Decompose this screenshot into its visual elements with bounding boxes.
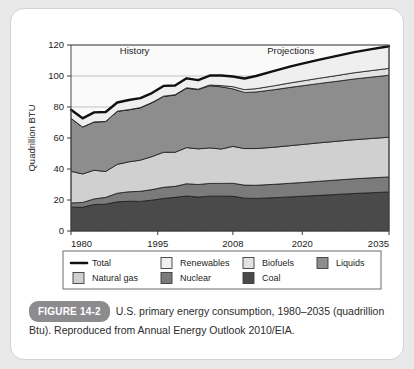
legend-swatch-biofuels: [243, 258, 254, 269]
y-tick-label: 0: [59, 225, 64, 236]
legend-label-liquids: Liquids: [336, 258, 365, 268]
legend-label-renewables: Renewables: [180, 258, 230, 268]
legend-swatch-coal: [243, 273, 254, 284]
legend-swatch-natural-gas: [73, 273, 84, 284]
y-tick-label: 40: [53, 163, 64, 174]
y-tick-label: 20: [53, 194, 64, 205]
figure-card: 02040608010012019801995200820202035Quadr…: [10, 8, 404, 360]
y-tick-label: 100: [48, 70, 64, 81]
legend-label-natural-gas: Natural gas: [92, 273, 139, 283]
energy-consumption-chart: 02040608010012019801995200820202035Quadr…: [23, 23, 393, 295]
legend-label-nuclear: Nuclear: [180, 273, 211, 283]
x-tick-label: 2020: [292, 238, 313, 249]
chart-panel: 02040608010012019801995200820202035Quadr…: [23, 23, 393, 295]
legend-label-total: Total: [92, 258, 111, 268]
legend-label-coal: Coal: [262, 273, 281, 283]
x-tick-label: 2035: [368, 238, 389, 249]
band-label: History: [120, 45, 150, 56]
x-tick-label: 2008: [222, 238, 243, 249]
legend-swatch-nuclear: [161, 273, 172, 284]
x-tick-label: 1995: [147, 238, 168, 249]
band-label: Projections: [267, 45, 314, 56]
figure-caption: FIGURE 14-2U.S. primary energy consumpti…: [29, 301, 391, 337]
figure-number-badge: FIGURE 14-2: [29, 301, 110, 322]
y-axis-title: Quadrillion BTU: [26, 104, 37, 171]
legend-swatch-renewables: [161, 258, 172, 269]
legend-swatch-liquids: [317, 258, 328, 269]
y-tick-label: 120: [48, 39, 64, 50]
x-tick-label: 1980: [71, 238, 92, 249]
y-tick-label: 60: [53, 132, 64, 143]
y-tick-label: 80: [53, 101, 64, 112]
legend-label-biofuels: Biofuels: [262, 258, 295, 268]
